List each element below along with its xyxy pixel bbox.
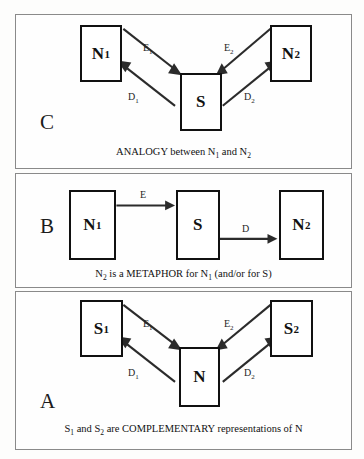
panel-a-edge-label-e2: E2 — [224, 318, 234, 329]
panel-b: B N1 S N2 E D N2 is a METAPHOR for N1 (a… — [15, 173, 352, 288]
node-label: N — [292, 215, 305, 235]
arrow-d1 — [117, 336, 175, 381]
panel-c-edge-label-d1: D1 — [128, 91, 139, 102]
panel-b-caption: N2 is a METAPHOR for N1 (and/or for S) — [16, 268, 351, 279]
panel-c-node-n1: N1 — [80, 25, 122, 82]
panel-b-node-n2: N2 — [279, 190, 324, 260]
arrow-d1 — [117, 60, 175, 105]
caption-middle: is a METAPHOR for N — [107, 268, 209, 279]
node-label: N — [83, 215, 96, 235]
caption-suffix: (and/or for S) — [212, 268, 272, 279]
node-label: N — [193, 367, 206, 387]
panel-c-edge-label-d2: D2 — [244, 91, 255, 102]
edge-label-sub: 1 — [135, 373, 139, 381]
panel-c-edge-label-e2: E2 — [224, 42, 234, 53]
node-label: N — [92, 44, 105, 64]
edge-label-sub: 2 — [251, 373, 255, 381]
caption-prefix: N — [95, 268, 103, 279]
edge-label-sub: 2 — [230, 324, 234, 332]
panel-a: A S1 N S2 E1 D1 E2 D2 S1 and S2 are COMP… — [15, 291, 352, 450]
panel-a-node-n: N — [179, 347, 220, 407]
panel-c-node-s: S — [180, 73, 222, 131]
panel-a-edge-label-d2: D2 — [244, 367, 255, 378]
panel-c-node-n2: N2 — [270, 25, 312, 82]
arrow-e — [116, 201, 175, 211]
panel-b-edge-label-e: E — [140, 189, 146, 200]
edge-label-sub: 1 — [149, 324, 153, 332]
figure-root: C N1 S N2 E1 D1 E2 D2 ANALOGY between N1… — [0, 0, 364, 459]
panel-b-node-n1: N1 — [69, 190, 116, 260]
panel-a-edge-label-e1: E1 — [143, 318, 153, 329]
panel-a-edge-label-d1: D1 — [128, 367, 139, 378]
panel-c: C N1 S N2 E1 D1 E2 D2 ANALOGY between N1… — [15, 14, 352, 169]
caption-middle: and S — [74, 423, 100, 434]
panel-letter-b: B — [40, 214, 55, 239]
node-label: S — [193, 215, 203, 235]
edge-label-sub: 2 — [251, 97, 255, 105]
panel-a-node-s2: S2 — [270, 300, 313, 357]
panel-c-edge-label-e1: E1 — [143, 42, 153, 53]
edge-label-text: E — [140, 189, 146, 200]
panel-a-caption: S1 and S2 are COMPLEMENTARY representati… — [16, 423, 351, 434]
panel-c-caption: ANALOGY between N1 and N2 — [16, 146, 351, 157]
panel-b-edge-label-d: D — [242, 223, 249, 234]
panel-a-node-s1: S1 — [80, 300, 123, 357]
caption-sub2: 2 — [247, 151, 251, 160]
edge-label-sub: 1 — [149, 48, 153, 56]
panel-letter-c: C — [40, 110, 55, 135]
node-label: S — [94, 319, 104, 339]
caption-middle: and N — [219, 146, 247, 157]
panel-letter-a: A — [40, 389, 56, 414]
edge-label-sub: 1 — [135, 97, 139, 105]
caption-suffix: are COMPLEMENTARY representations of N — [104, 423, 303, 434]
arrow-d — [219, 234, 278, 244]
node-label: S — [284, 319, 294, 339]
edge-label-sub: 2 — [230, 48, 234, 56]
node-label: S — [196, 92, 206, 112]
edge-label-text: D — [242, 223, 249, 234]
panel-b-node-s: S — [176, 190, 220, 260]
node-label: N — [282, 44, 295, 64]
caption-prefix: ANALOGY between N — [116, 146, 215, 157]
